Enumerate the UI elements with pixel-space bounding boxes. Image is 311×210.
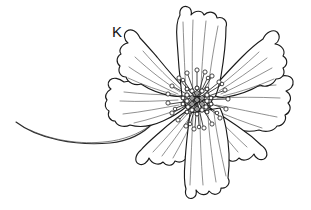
stamen-anther [218,116,222,120]
disc-floret [190,89,194,93]
stamen-anther [210,122,214,126]
disc-floret [200,89,204,93]
stamen-anther [166,101,170,105]
stamen-anther [166,92,170,96]
disc-floret [195,86,199,90]
figure-label-k: K [112,24,122,39]
disc-floret [205,110,209,114]
stamen-anther [188,122,192,126]
disc-floret-group [181,86,213,116]
disc-dot [196,99,198,101]
disc-floret [185,99,189,103]
disc-floret [209,96,213,100]
disc-floret [181,102,185,106]
disc-floret [181,96,185,100]
disc-dot [196,108,198,110]
stamen-anther [176,118,180,122]
disc-floret [195,112,199,116]
stamen-anther [181,78,185,82]
disc-floret [185,87,189,91]
stamen-anther [184,124,188,128]
disc-floret [209,102,213,106]
disc-floret [185,93,189,97]
disc-dot [201,97,203,99]
flower-drawing [0,0,311,210]
stamen-anther [206,76,210,80]
stamen-anther [226,97,230,101]
disc-dot [191,103,193,105]
stamen-anther [197,125,201,129]
stamen-anther [170,84,174,88]
stamen-anther [223,88,227,92]
disc-floret [205,99,209,103]
stamen-anther [202,126,206,130]
botanical-figure: K [0,0,311,210]
disc-floret [205,93,209,97]
disc-floret [204,105,208,109]
disc-floret [185,110,189,114]
stamen-anther [185,71,189,75]
stamen-anther [173,107,177,111]
disc-floret [190,108,194,112]
stamen-anther [195,68,199,72]
disc-floret [186,105,190,109]
stamen-anther [215,111,219,115]
stamen-anther [177,76,181,80]
disc-dot [196,92,198,94]
stamen-anther [170,111,174,115]
disc-floret [200,108,204,112]
stamen-anther [203,70,207,74]
stamen-anther [220,82,224,86]
disc-floret [205,87,209,91]
disc-dot [191,97,193,99]
stamen-anther [224,107,228,111]
stamen-anther [210,74,214,78]
disc-dot [201,103,203,105]
stamen-anther [192,127,196,131]
